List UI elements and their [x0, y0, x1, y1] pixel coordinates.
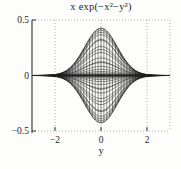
x-tick-label: −2 — [50, 135, 60, 145]
z-tick-label: 0 — [24, 71, 29, 81]
x-axis-label: y — [30, 145, 172, 156]
plot-svg: 0.50−0.5−202 — [0, 0, 181, 169]
x-tick-label: 2 — [145, 135, 150, 145]
z-tick-label: −0.5 — [12, 126, 29, 136]
z-tick-label: 0.5 — [17, 15, 29, 25]
x-tick-label: 0 — [99, 135, 104, 145]
mesh-figure: x exp(−x²−y²) 0.50−0.5−202 y — [0, 0, 181, 169]
